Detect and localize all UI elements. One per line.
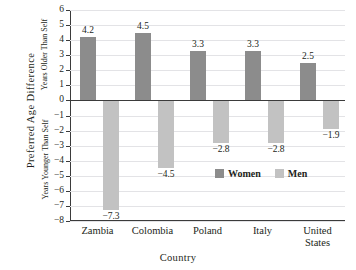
bar-group: 4.5−4.5	[125, 10, 180, 221]
x-axis-title: Country	[0, 252, 356, 263]
x-axis-tick-label: UnitedStates	[283, 225, 353, 248]
y-axis-tick-label: −3	[54, 141, 64, 151]
y-axis-positive-direction-label: Years Older Than Self	[40, 0, 49, 110]
bar-value-label: −2.8	[206, 145, 236, 155]
y-axis-tick-label: 4	[59, 35, 64, 45]
y-axis-tick-label: −7	[54, 201, 64, 211]
bar-value-label: 3.3	[238, 40, 268, 50]
bar-group: 3.3−2.8	[235, 10, 290, 221]
bar-group: 4.2−7.3	[70, 10, 125, 221]
bar-value-label: 4.5	[128, 22, 158, 32]
y-axis-tick-label: 6	[59, 5, 64, 15]
bar-men	[323, 100, 339, 129]
y-axis-tick-label: −5	[54, 171, 64, 181]
legend-swatch	[275, 169, 284, 178]
chart-legend: WomenMen	[215, 168, 315, 179]
bar-value-label: 3.3	[183, 40, 213, 50]
y-axis-title: Preferred Age Difference	[25, 26, 36, 196]
bar-women	[135, 33, 151, 101]
legend-item: Men	[275, 168, 307, 179]
bar-group: 3.3−2.8	[180, 10, 235, 221]
bar-women	[80, 37, 96, 100]
bar-value-label: 2.5	[293, 52, 323, 62]
bar-series-layer: 4.2−7.34.5−4.53.3−2.83.3−2.82.5−1.9	[70, 10, 345, 221]
x-axis-tick-label-line: States	[283, 237, 353, 249]
x-axis-tick-label-line: United	[283, 225, 353, 237]
chart-figure: Preferred Age Difference Years Older Tha…	[0, 0, 356, 270]
zero-line	[70, 100, 345, 101]
y-axis-tick-label: 2	[59, 66, 64, 76]
bar-men	[268, 100, 284, 142]
y-axis-tick-label: −4	[54, 156, 64, 166]
y-axis-tick-label: 0	[59, 96, 64, 106]
legend-item: Women	[215, 168, 261, 179]
bar-men	[103, 100, 119, 210]
y-axis-negative-direction-label: Years Younger Than Self	[41, 105, 50, 215]
bar-value-label: 4.2	[73, 26, 103, 36]
y-axis-tick-label: −2	[54, 126, 64, 136]
bar-value-label: −1.9	[316, 131, 346, 141]
legend-swatch	[215, 169, 224, 178]
bar-value-label: −7.3	[96, 212, 126, 222]
y-axis-tick-label: 3	[59, 50, 64, 60]
y-axis-tick-label: 5	[59, 20, 64, 30]
bar-women	[190, 51, 206, 101]
bar-men	[158, 100, 174, 168]
bar-value-label: −4.5	[151, 170, 181, 180]
y-axis-tick	[66, 221, 70, 222]
legend-label: Men	[288, 168, 307, 179]
bar-women	[300, 63, 316, 101]
y-axis-tick-label: −6	[54, 186, 64, 196]
y-axis-tick-label: −1	[54, 111, 64, 121]
bar-men	[213, 100, 229, 142]
plot-area: 6543210−1−2−3−4−5−6−7−8 4.2−7.34.5−4.53.…	[70, 10, 345, 221]
legend-label: Women	[228, 168, 261, 179]
bar-value-label: −2.8	[261, 145, 291, 155]
bar-women	[245, 51, 261, 101]
y-axis-tick-label: 1	[59, 81, 64, 91]
bar-group: 2.5−1.9	[290, 10, 345, 221]
